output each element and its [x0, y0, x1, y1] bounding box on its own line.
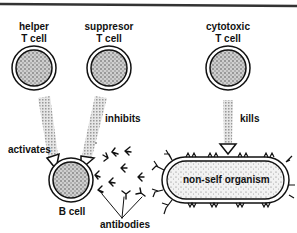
activates-label: activates [8, 144, 51, 156]
suppressor-line2: T cell [84, 33, 134, 45]
helper-line2: T cell [14, 33, 54, 45]
kills-label: kills [240, 113, 259, 125]
activates-arrow-icon [38, 96, 59, 169]
top-border [0, 4, 297, 6]
suppressor-t-cell-label: suppresor T cell [84, 21, 134, 45]
suppressor-line1: suppresor [84, 21, 134, 33]
cytotoxic-line1: cytotoxic [203, 21, 253, 33]
antibodies-icon [95, 143, 145, 218]
cytotoxic-t-cell-icon [206, 46, 250, 90]
helper-t-cell-icon [12, 46, 56, 90]
antibodies-label: antibodies [100, 219, 150, 231]
helper-line1: helper [14, 21, 54, 33]
kills-arrow-icon [220, 100, 236, 154]
inhibits-arrow-icon [81, 96, 107, 169]
suppressor-t-cell-icon [87, 46, 131, 90]
helper-t-cell-label: helper T cell [14, 21, 54, 45]
b-cell-label: B cell [56, 206, 88, 218]
organism-label: non-self organism [183, 174, 269, 186]
inhibits-label: inhibits [105, 113, 141, 125]
cytotoxic-t-cell-label: cytotoxic T cell [203, 21, 253, 45]
b-cell-icon [49, 158, 93, 202]
cytotoxic-line2: T cell [203, 33, 253, 45]
